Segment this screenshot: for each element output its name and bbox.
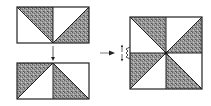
seam-fold-icon (126, 47, 130, 59)
pinwheel-block (130, 17, 202, 89)
pair-top (17, 7, 89, 43)
arrow-up-icon (121, 45, 123, 53)
arrow-down-icon (121, 54, 123, 62)
arrow-right-icon (100, 51, 115, 56)
pair-bottom (17, 63, 89, 99)
arrow-down-icon (51, 46, 55, 61)
pinwheel-assembly-diagram (0, 0, 211, 106)
center-point (164, 51, 167, 54)
seam-press-indicator (121, 45, 130, 62)
